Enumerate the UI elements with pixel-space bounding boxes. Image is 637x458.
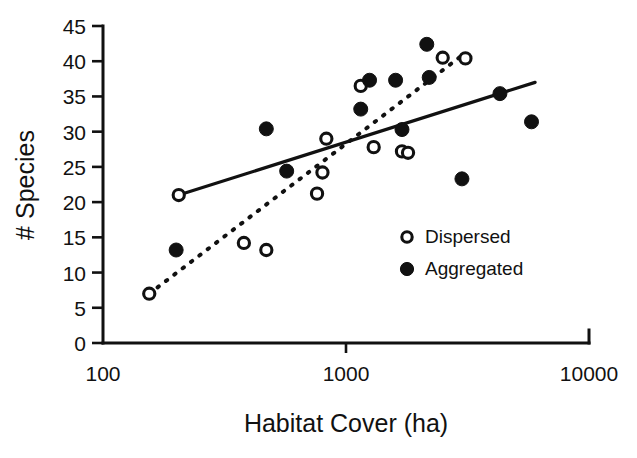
y-tick-label: 0 — [74, 332, 86, 355]
y-axis-title: # Species — [11, 130, 39, 240]
y-tick-label: 40 — [63, 50, 86, 73]
data-point-aggregated — [420, 37, 434, 51]
y-tick-label: 15 — [63, 226, 86, 249]
data-point-aggregated — [280, 164, 294, 178]
y-tick-label: 20 — [63, 191, 86, 214]
data-point-dispersed — [460, 53, 471, 64]
data-point-dispersed — [238, 237, 249, 248]
legend-marker-dispersed — [402, 232, 412, 242]
data-point-aggregated — [354, 102, 368, 116]
data-point-aggregated — [422, 70, 436, 84]
x-tick-label: 1000 — [323, 362, 370, 385]
y-tick-label: 45 — [63, 15, 86, 38]
y-tick-label: 10 — [63, 262, 86, 285]
data-point-dispersed — [261, 244, 272, 255]
data-point-dispersed — [311, 188, 322, 199]
data-point-aggregated — [525, 115, 539, 129]
data-point-aggregated — [455, 172, 469, 186]
data-point-dispersed — [173, 189, 184, 200]
legend-label-aggregated: Aggregated — [425, 258, 523, 279]
x-tick-label: 100 — [85, 362, 120, 385]
data-point-dispersed — [368, 142, 379, 153]
data-point-aggregated — [259, 122, 273, 136]
data-point-aggregated — [389, 73, 403, 87]
chart-background — [0, 0, 637, 458]
legend-marker-aggregated — [400, 262, 413, 275]
y-tick-label: 30 — [63, 121, 86, 144]
legend-label-dispersed: Dispersed — [425, 226, 511, 247]
y-tick-label: 35 — [63, 85, 86, 108]
data-point-dispersed — [321, 133, 332, 144]
data-point-aggregated — [395, 123, 409, 137]
y-tick-label: 5 — [74, 297, 86, 320]
data-point-dispersed — [402, 147, 413, 158]
data-point-aggregated — [493, 87, 507, 101]
scatter-chart: 051015202530354045 100100010000 Disperse… — [0, 0, 637, 458]
x-tick-label: 10000 — [560, 362, 618, 385]
data-point-aggregated — [363, 73, 377, 87]
data-point-dispersed — [144, 288, 155, 299]
data-point-aggregated — [169, 243, 183, 257]
data-point-dispersed — [437, 52, 448, 63]
x-axis-title: Habitat Cover (ha) — [244, 409, 448, 437]
data-point-dispersed — [317, 167, 328, 178]
y-tick-label: 25 — [63, 156, 86, 179]
